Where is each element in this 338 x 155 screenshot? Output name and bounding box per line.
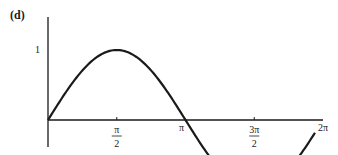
x-tick-denominator: 2 [114,138,119,149]
y-tick-label: 1 [35,44,40,55]
x-tick-label: π [179,122,184,133]
x-tick-numerator: π [114,124,119,135]
x-tick-denominator: 2 [252,138,257,149]
sine-curve [48,50,315,155]
x-tick-label: 2π [318,122,328,133]
tick-labels: π2π3π22π1−1 [29,44,328,155]
x-tick-numerator: 3π [249,124,259,135]
axes [48,17,323,147]
sine-chart: π2π3π22π1−1 [0,0,338,155]
